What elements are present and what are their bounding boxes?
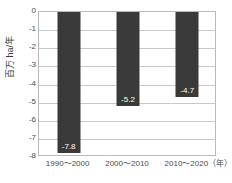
x-axis-tick-label: 2000～2010 (105, 159, 149, 169)
bars-group: -7.8-5.2-4.7 (39, 12, 215, 155)
bar-chart: 百万 ha/年 0-1-2-3-4-5-6-7-8 -7.8-5.2-4.7 （… (0, 0, 232, 183)
y-axis-tick-label: -2 (16, 43, 36, 51)
bar[interactable] (57, 12, 80, 153)
y-axis-tick-label: -4 (16, 80, 36, 88)
bar-slot: -4.7 (158, 12, 216, 155)
bar-slot: -5.2 (98, 12, 157, 155)
y-axis-tick-label: -3 (16, 61, 36, 69)
bar-slot: -7.8 (39, 12, 98, 155)
y-axis-tick-label: -1 (16, 25, 36, 33)
x-axis-tick-labels: （年） 1990～20002000～20102010～2020 (38, 159, 216, 173)
x-axis-unit-label: （年） (208, 159, 232, 169)
y-axis-tick-labels: 0-1-2-3-4-5-6-7-8 (16, 11, 36, 156)
y-axis-tick-label: -5 (16, 98, 36, 106)
bar-value-label: -7.8 (62, 142, 76, 151)
y-axis-tick-label: 0 (16, 7, 36, 15)
y-axis-title: 百万 ha/年 (3, 17, 17, 97)
x-axis-tick-label: 2010～2020 (165, 159, 209, 169)
plot-area: -7.8-5.2-4.7 (38, 11, 216, 156)
y-axis-tick-label: -6 (16, 116, 36, 124)
x-axis-tick-label: 1990～2000 (46, 159, 90, 169)
y-axis-tick-label: -8 (16, 152, 36, 160)
bar[interactable] (116, 12, 139, 106)
y-axis-tick-label: -7 (16, 134, 36, 142)
bar-value-label: -4.7 (180, 86, 194, 95)
bar[interactable] (176, 12, 199, 97)
bar-value-label: -5.2 (121, 95, 135, 104)
